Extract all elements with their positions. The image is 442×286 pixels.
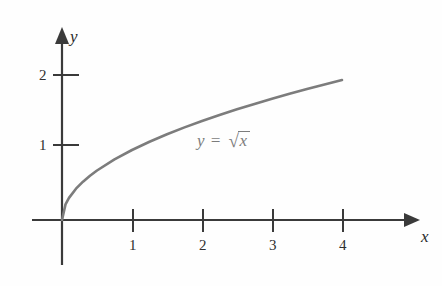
y-tick-label-1: 1 — [39, 138, 47, 153]
radicand: x — [238, 131, 249, 149]
equation-equals: = — [210, 131, 222, 150]
curve-equation-label: y = √x — [197, 131, 250, 150]
x-tick-label-2: 2 — [199, 238, 207, 253]
x-axis-arrow-icon — [404, 213, 420, 227]
x-tick-label-1: 1 — [129, 238, 137, 253]
figure-canvas: 1 2 3 4 1 2 x y y = √x — [0, 0, 442, 286]
x-tick-label-4: 4 — [339, 238, 347, 253]
equation-lhs: y — [197, 131, 205, 150]
sqrt-curve — [62, 80, 342, 220]
x-tick-label-3: 3 — [269, 238, 277, 253]
y-axis-label: y — [70, 28, 78, 45]
radical-expression: √x — [227, 131, 250, 150]
y-tick-label-2: 2 — [39, 68, 47, 83]
y-axis-arrow-icon — [55, 27, 69, 44]
x-axis-label: x — [421, 228, 429, 245]
